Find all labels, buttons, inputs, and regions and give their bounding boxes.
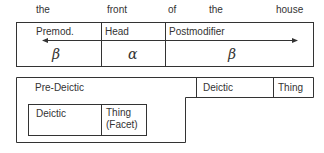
label-postmodifier: Postmodifier (169, 26, 225, 37)
label-thing-right: Thing (278, 82, 303, 93)
arrow-left-head-icon (42, 38, 48, 43)
arrow-right-head-icon (292, 38, 298, 43)
label-thing-inner: Thing (106, 107, 131, 118)
greek-beta-premod: β (52, 46, 60, 62)
diagram-lines (0, 0, 324, 153)
label-head: Head (105, 26, 129, 37)
label-facet-inner: (Facet) (106, 119, 138, 130)
greek-alpha-head: α (128, 46, 137, 62)
label-pre-deictic: Pre-Deictic (35, 82, 84, 93)
label-deictic-right: Deictic (203, 82, 233, 93)
label-premod: Premod. (36, 26, 74, 37)
label-deictic-inner: Deictic (36, 108, 66, 119)
greek-beta-postmod: β (228, 46, 236, 62)
